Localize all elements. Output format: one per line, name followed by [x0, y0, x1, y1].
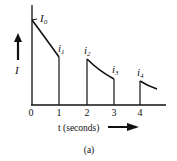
- x-axis-label: t (seconds): [58, 123, 99, 134]
- y-axis-label: I: [14, 64, 20, 76]
- label-i4: i4: [137, 66, 144, 80]
- pulse-3-curve: [140, 81, 157, 89]
- x-tick-1: 1: [57, 107, 62, 118]
- label-i0: I0: [39, 12, 48, 26]
- label-i3: i3: [112, 63, 119, 77]
- figure-caption: (a): [84, 145, 95, 156]
- i0-marker: [32, 19, 37, 20]
- label-i1: i1: [58, 42, 65, 56]
- x-axis-arrow-icon: [108, 123, 139, 131]
- current-pulse-diagram: I I0 i1 i2 i3 i4 0 1 2 3 4 t (seconds) (…: [0, 0, 177, 161]
- x-tick-2: 2: [85, 107, 90, 118]
- label-i2: i2: [84, 44, 91, 58]
- x-tick-3: 3: [112, 107, 117, 118]
- x-tick-4: 4: [138, 107, 143, 118]
- pulse-2-curve: [87, 59, 114, 79]
- y-axis-arrow-icon: [14, 33, 22, 60]
- x-tick-0: 0: [29, 107, 34, 118]
